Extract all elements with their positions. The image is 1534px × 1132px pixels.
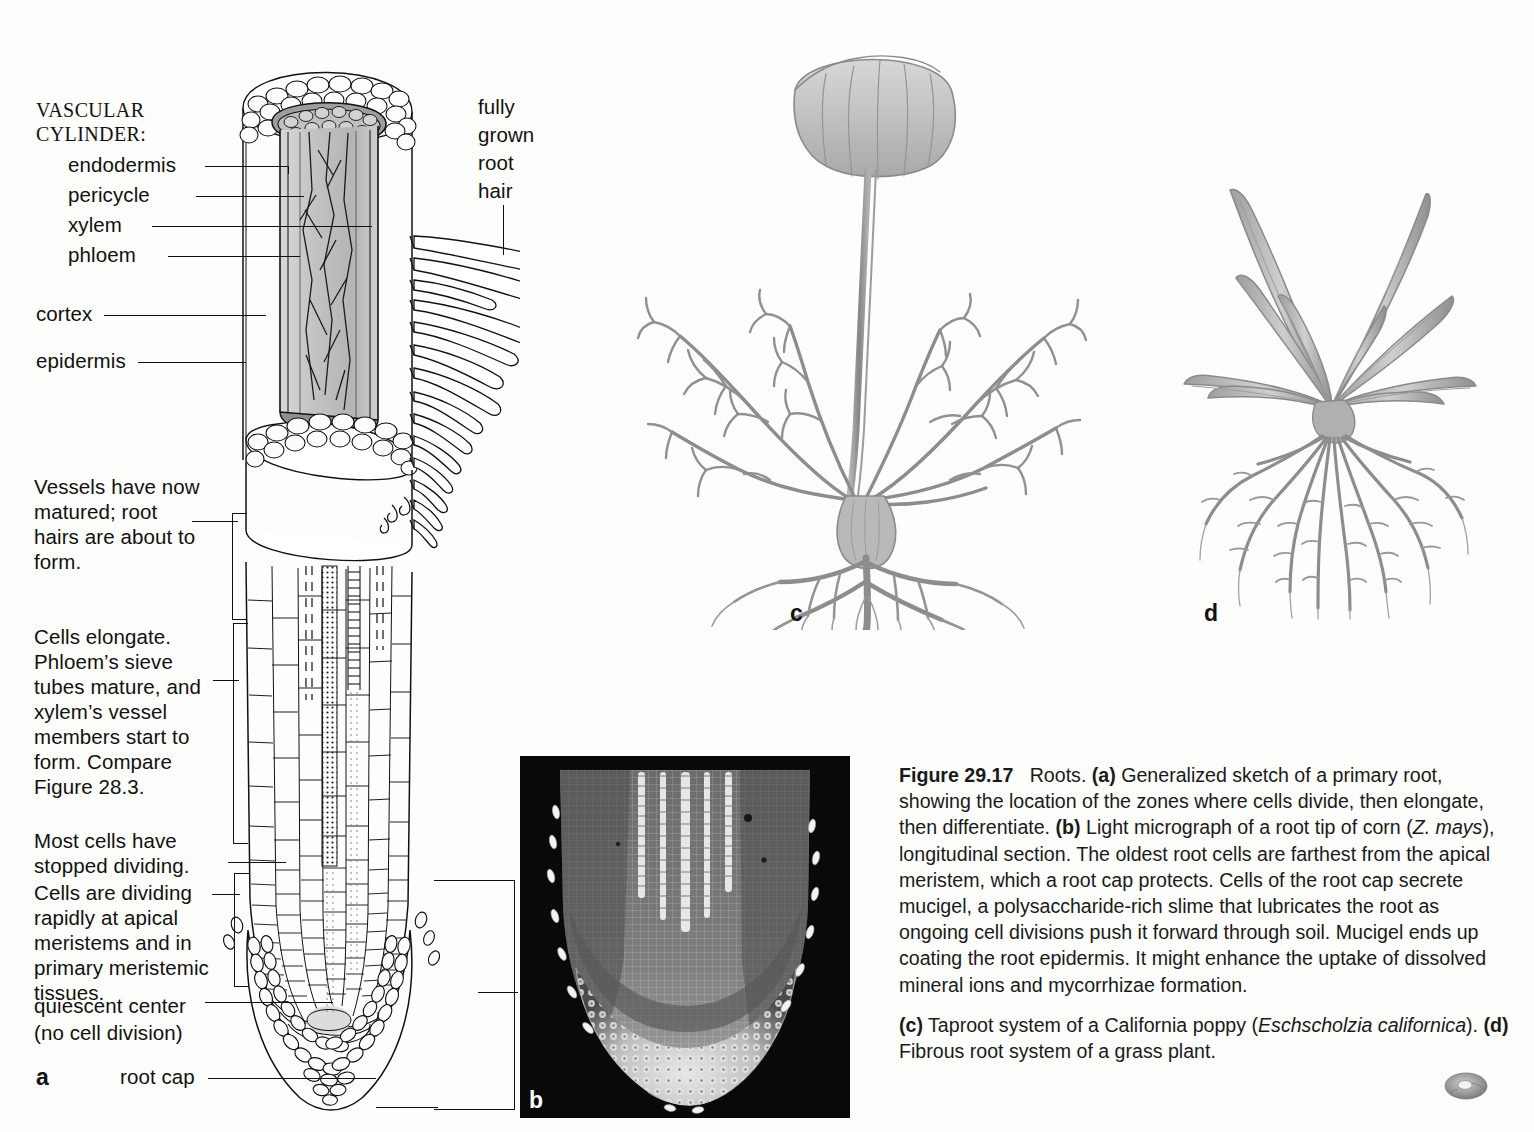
panel-d-letter: d: [1204, 600, 1218, 627]
cd-rom-icon: [1444, 1072, 1488, 1100]
label-root-hair: fully grown root hair: [478, 93, 534, 205]
caption-tag-c: (c): [899, 1014, 923, 1036]
label-endodermis: endodermis: [68, 152, 176, 177]
caption-text-b2: ), longitudinal section. The oldest root…: [899, 816, 1494, 995]
leader-xylem: [152, 226, 372, 227]
zone-label-stopped-dividing: Most cells have stopped dividing.: [34, 828, 224, 878]
quiescent-line1: quiescent center: [34, 992, 186, 1019]
bracket-zone-maturation: [232, 513, 247, 620]
caption-tag-d: (d): [1483, 1014, 1508, 1036]
caption-species-genus: Eschscholzia: [1258, 1014, 1372, 1036]
panel-b-micrograph: b: [520, 756, 850, 1118]
leader-endodermis-drop: [288, 166, 289, 174]
caption-paragraph-1: Figure 29.17 Roots. (a) Generalized sket…: [899, 762, 1511, 998]
leader-epidermis: [138, 362, 246, 363]
label-root-cap: root cap: [120, 1064, 195, 1089]
caption-text-d: Fibrous root system of a grass plant.: [899, 1040, 1216, 1062]
leader-phloem: [168, 256, 300, 257]
bracket-zone-dividing: [234, 873, 249, 987]
label-xylem: xylem: [68, 212, 122, 237]
cd-rom-svg: [1444, 1072, 1488, 1100]
vascular-cylinder-heading: VASCULAR CYLINDER:: [36, 98, 146, 146]
panel-c-letter: c: [790, 600, 803, 627]
root-hair-line2: grown: [478, 121, 534, 149]
label-epidermis: epidermis: [36, 348, 126, 373]
caption-title: Roots.: [1030, 764, 1087, 786]
zone-label-elongation: Cells elongate. Phloem’s sieve tubes mat…: [34, 624, 214, 799]
label-pericycle: pericycle: [68, 182, 150, 207]
label-quiescent-center: quiescent center (no cell division): [34, 992, 186, 1046]
caption-tag-b: (b): [1056, 816, 1081, 838]
leader-endodermis: [205, 166, 289, 167]
caption-species-zmays: Z. mays: [1413, 816, 1483, 838]
poppy-svg: [630, 30, 1130, 630]
label-phloem: phloem: [68, 242, 136, 267]
micrograph-svg: [520, 756, 850, 1118]
caption-species-epithet: californica: [1378, 1014, 1466, 1036]
caption-text-c2: ).: [1466, 1014, 1483, 1036]
leader-root-tip-pointer: [376, 1107, 438, 1108]
panel-c-poppy: [630, 30, 1130, 630]
caption-paragraph-2: (c) Taproot system of a California poppy…: [899, 1012, 1511, 1064]
leader-pericycle: [196, 196, 304, 197]
grass-svg: [1140, 150, 1520, 620]
zone-label-maturation: Vessels have now matured; root hairs are…: [34, 474, 206, 574]
zone-label-dividing: Cells are dividing rapidly at apical mer…: [34, 880, 230, 1005]
leader-root-cap: [208, 1078, 376, 1079]
label-cortex: cortex: [36, 301, 92, 326]
caption-figure-number: Figure 29.17: [899, 764, 1013, 786]
bracket-to-micrograph: [434, 880, 515, 1110]
leader-zone-stopped: [228, 862, 286, 863]
figure-caption: Figure 29.17 Roots. (a) Generalized sket…: [899, 762, 1511, 1064]
vascular-heading-line2: CYLINDER:: [36, 122, 146, 146]
caption-text-b1: Light micrograph of a root tip of corn (: [1081, 816, 1413, 838]
leader-quiescent-center: [205, 1002, 333, 1003]
leader-to-micrograph: [478, 992, 518, 993]
leader-root-hair: [503, 205, 504, 255]
caption-text-c1: Taproot system of a California poppy (: [923, 1014, 1258, 1036]
root-hair-line3: root: [478, 149, 534, 177]
panel-a-letter: a: [36, 1064, 49, 1091]
leader-cortex: [104, 315, 266, 316]
quiescent-line2: (no cell division): [34, 1019, 186, 1046]
root-hair-line1: fully: [478, 93, 534, 121]
bracket-zone-elongation: [233, 623, 248, 844]
panel-b-letter: b: [529, 1087, 543, 1114]
vascular-heading-line1: VASCULAR: [36, 98, 146, 122]
root-hair-line4: hair: [478, 177, 534, 205]
caption-tag-a: (a): [1092, 764, 1116, 786]
panel-d-grass: [1140, 150, 1520, 620]
